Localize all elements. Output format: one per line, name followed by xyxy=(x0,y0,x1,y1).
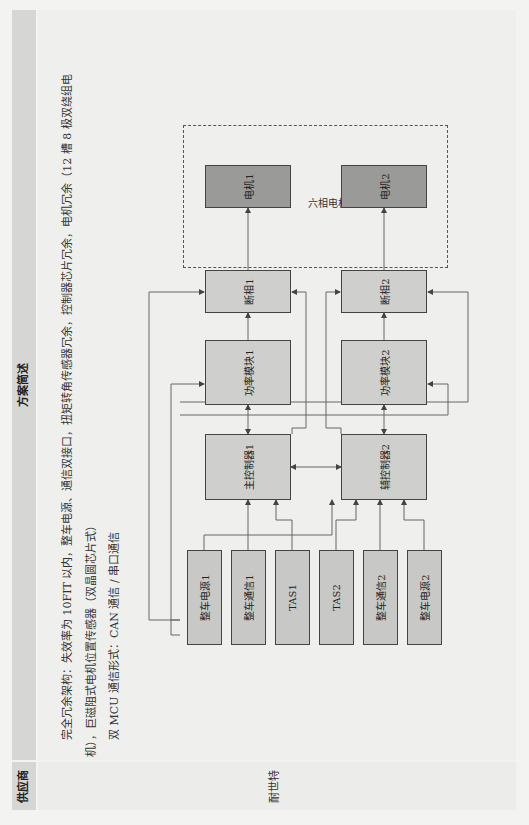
vehicle-comm-2-label: 整车通信2 xyxy=(373,574,388,620)
controller-2-label: 辅控制器2 xyxy=(377,444,392,490)
phase-cut-1-label: 断相1 xyxy=(241,278,256,304)
controller-1-label: 主控制器1 xyxy=(241,444,256,490)
tas-1-block: TAS1 xyxy=(275,550,310,645)
rotated-document-page: 供应商 方案简述 耐世特 完全冗余架构：失效率为 10FIT 以内，整车电源、通… xyxy=(0,0,529,825)
controller-1-block: 主控制器1 xyxy=(205,434,291,500)
vehicle-power-2-label: 整车电源2 xyxy=(417,574,432,620)
vehicle-comm-1-block: 整车通信1 xyxy=(231,550,266,645)
tas-2-label: TAS2 xyxy=(331,584,342,611)
power-module-1-block: 功率模块1 xyxy=(205,340,291,405)
phase-cut-2-label: 断相2 xyxy=(377,278,392,304)
vehicle-comm-1-label: 整车通信1 xyxy=(241,574,256,620)
vehicle-comm-2-block: 整车通信2 xyxy=(363,550,398,645)
controller-2-block: 辅控制器2 xyxy=(341,434,427,500)
vehicle-power-1-block: 整车电源1 xyxy=(187,550,222,645)
phase-cut-1-block: 断相1 xyxy=(205,270,291,313)
motor-1-label: 电机1 xyxy=(241,173,256,199)
vehicle-power-1-label: 整车电源1 xyxy=(197,574,212,620)
motor-2-block: 电机2 xyxy=(341,165,427,208)
power-module-1-label: 功率模块1 xyxy=(241,349,256,395)
power-module-2-label: 功率模块2 xyxy=(377,349,392,395)
diagram-ch-links xyxy=(0,0,529,825)
power-module-2-block: 功率模块2 xyxy=(341,340,427,405)
motor-1-block: 电机1 xyxy=(205,165,291,208)
motor-2-label: 电机2 xyxy=(377,173,392,199)
phase-cut-2-block: 断相2 xyxy=(341,270,427,313)
vehicle-power-2-block: 整车电源2 xyxy=(407,550,442,645)
tas-2-block: TAS2 xyxy=(319,550,354,645)
tas-1-label: TAS1 xyxy=(287,584,298,611)
